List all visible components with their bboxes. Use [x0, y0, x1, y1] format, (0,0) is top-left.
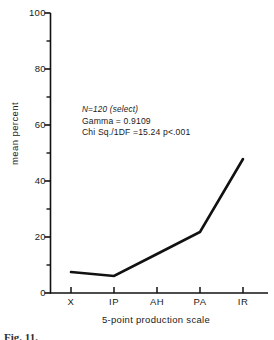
y-tick-label: 0	[12, 288, 46, 298]
y-axis-title: mean percent	[9, 84, 20, 184]
x-tick-label-pa: PA	[180, 296, 220, 307]
x-ticks	[71, 287, 243, 293]
annotation-line-gamma: Gamma = 0.9109	[82, 116, 190, 128]
x-axis-title: 5-point production scale	[50, 314, 262, 325]
annotation-line-chisq: Chi Sq./1DF =15.24 p<.001	[82, 127, 190, 139]
y-tick-label: 80	[12, 64, 46, 74]
statistics-annotation: N=120 (select) Gamma = 0.9109 Chi Sq./1D…	[82, 104, 190, 139]
figure-chart: 0 20 40 60 80 100 X IP AH PA IR mean per…	[0, 0, 274, 340]
y-tick-label: 100	[12, 8, 46, 18]
x-tick-label-ir: IR	[223, 296, 263, 307]
x-tick-label-x: X	[51, 296, 91, 307]
annotation-line-n: N=120 (select)	[82, 104, 190, 116]
figure-caption: Fig. 11.	[4, 331, 38, 340]
y-tick-label: 20	[12, 232, 46, 242]
x-tick-label-ah: AH	[137, 296, 177, 307]
x-tick-label-ip: IP	[94, 296, 134, 307]
data-series-line	[71, 159, 243, 276]
